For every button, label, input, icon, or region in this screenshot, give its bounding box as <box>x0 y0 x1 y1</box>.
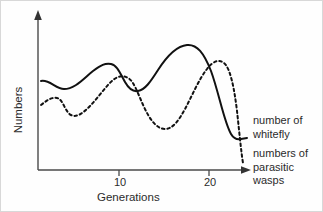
legend-whitefly-line-1: number of <box>253 114 303 128</box>
legend-wasps-line-2: parasitic <box>253 161 308 175</box>
x-tick-label-10: 10 <box>114 177 126 188</box>
legend-whitefly-line-2: whitefly <box>253 128 303 142</box>
legend-label-wasps: numbers of parasitic wasps <box>253 147 308 188</box>
legend-wasps-line-1: numbers of <box>253 147 308 161</box>
chart-figure: 10 20 Generations Numbers number of whit… <box>0 0 323 212</box>
y-axis-title: Numbers <box>12 80 24 140</box>
series-line-whitefly <box>41 45 247 139</box>
y-axis-arrow-icon <box>34 10 42 20</box>
x-axis-title: Generations <box>97 191 160 203</box>
x-axis-arrow-icon <box>241 166 251 174</box>
x-tick-label-20: 20 <box>204 177 216 188</box>
legend-wasps-line-3: wasps <box>253 174 308 188</box>
legend-label-whitefly: number of whitefly <box>253 114 303 141</box>
